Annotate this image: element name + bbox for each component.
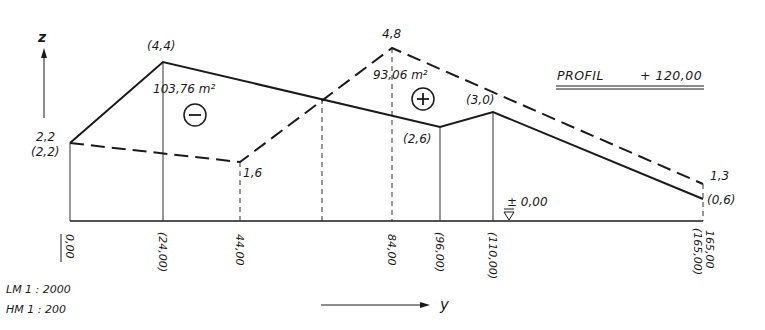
z-axis-label: z [37,29,47,45]
station-label-2: 44,00 [233,234,246,266]
profile-title-label: PROFIL [557,68,604,83]
reference-level-label: ± 0,00 [507,195,548,209]
station-label-0: 0,00 [63,234,76,259]
profile-title: PROFIL + 120,00 [556,68,704,89]
reference-level: ± 0,00 [504,195,548,220]
y-axis-label: y [439,296,450,314]
y-arrow-icon [420,302,430,308]
design-label-0: 2,2 [36,130,55,144]
station-lines-dashed [240,48,703,221]
station-label-5: (110,00) [486,232,499,279]
station-label-4: (96,00) [433,232,446,272]
z-arrow-icon [41,48,47,58]
profile-station: + 120,00 [640,68,702,83]
y-axis: y [321,296,450,314]
z-axis: z [37,29,47,118]
terrain-label-3: (3,0) [466,93,494,107]
station-labels: 0,00 (24,00) 44,00 84,00 (96,00) (110,00… [61,228,716,279]
scale-lm: LM 1 : 2000 [6,283,71,296]
station-label-1: (24,00) [156,232,169,272]
design-label-3: 1,3 [710,169,729,183]
scale-hm: HM 1 : 200 [6,303,66,316]
design-label-1: 1,6 [243,166,262,180]
terrain-label-1: (4,4) [147,39,175,53]
terrain-label-2: (2,6) [403,132,431,146]
station-label-7: (165,00) [691,228,704,275]
design-label-2: 4,8 [382,27,401,41]
fill-area: 93,06 m² [373,68,434,110]
profile-diagram: z PROFIL + 120,00 (2,2) (4,4) (2,6) (3,0… [0,0,765,330]
cut-area: 103,76 m² [153,82,215,126]
cut-area-value: 103,76 m² [153,82,215,96]
fill-area-value: 93,06 m² [373,68,428,82]
terrain-label-0: (2,2) [31,145,59,159]
station-label-3: 84,00 [385,234,398,266]
level-triangle-icon [504,212,514,220]
terrain-label-4: (0,6) [707,193,735,207]
